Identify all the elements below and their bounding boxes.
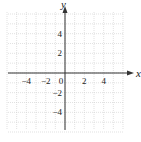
- x-axis-label: x: [135, 67, 141, 79]
- y-tick-label: 4: [58, 29, 63, 39]
- y-axis-label: y: [60, 0, 66, 10]
- x-tick-label: 0: [59, 76, 64, 86]
- coordinate-plane: xy−4−202442−2−4: [0, 0, 141, 142]
- x-tick-label: −2: [41, 76, 51, 86]
- y-tick-label: −2: [52, 88, 62, 98]
- x-tick-label: 4: [101, 76, 106, 86]
- y-tick-label: 2: [58, 48, 63, 58]
- x-tick-label: 2: [82, 76, 87, 86]
- y-tick-label: −4: [52, 107, 62, 117]
- x-tick-label: −4: [22, 76, 32, 86]
- x-axis-arrow-icon: [127, 71, 134, 76]
